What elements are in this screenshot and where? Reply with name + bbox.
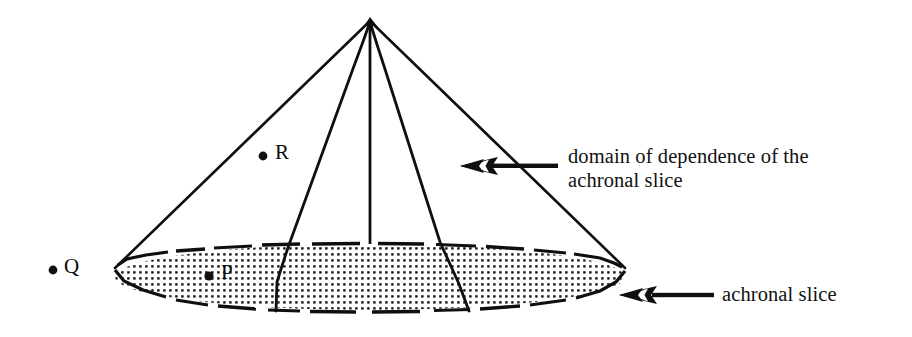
annotation-achronal-slice: achronal slice	[722, 282, 837, 306]
lightcone-diagram: Q P R domain of dependence of the achron…	[0, 0, 912, 337]
domain-of-dependence-arrow	[460, 157, 558, 175]
point-dot-p	[204, 271, 213, 280]
annotation-domain-of-dependence: domain of dependence of the achronal sli…	[568, 144, 809, 192]
point-dot-r	[259, 152, 268, 161]
achronal-slice-arrow	[619, 286, 714, 304]
point-label-p: P	[221, 262, 233, 283]
point-label-r: R	[275, 142, 289, 163]
point-label-q: Q	[64, 256, 79, 277]
point-dot-q	[49, 266, 58, 275]
cone-apex	[364, 17, 377, 26]
achronal-slice-shape	[115, 244, 625, 313]
